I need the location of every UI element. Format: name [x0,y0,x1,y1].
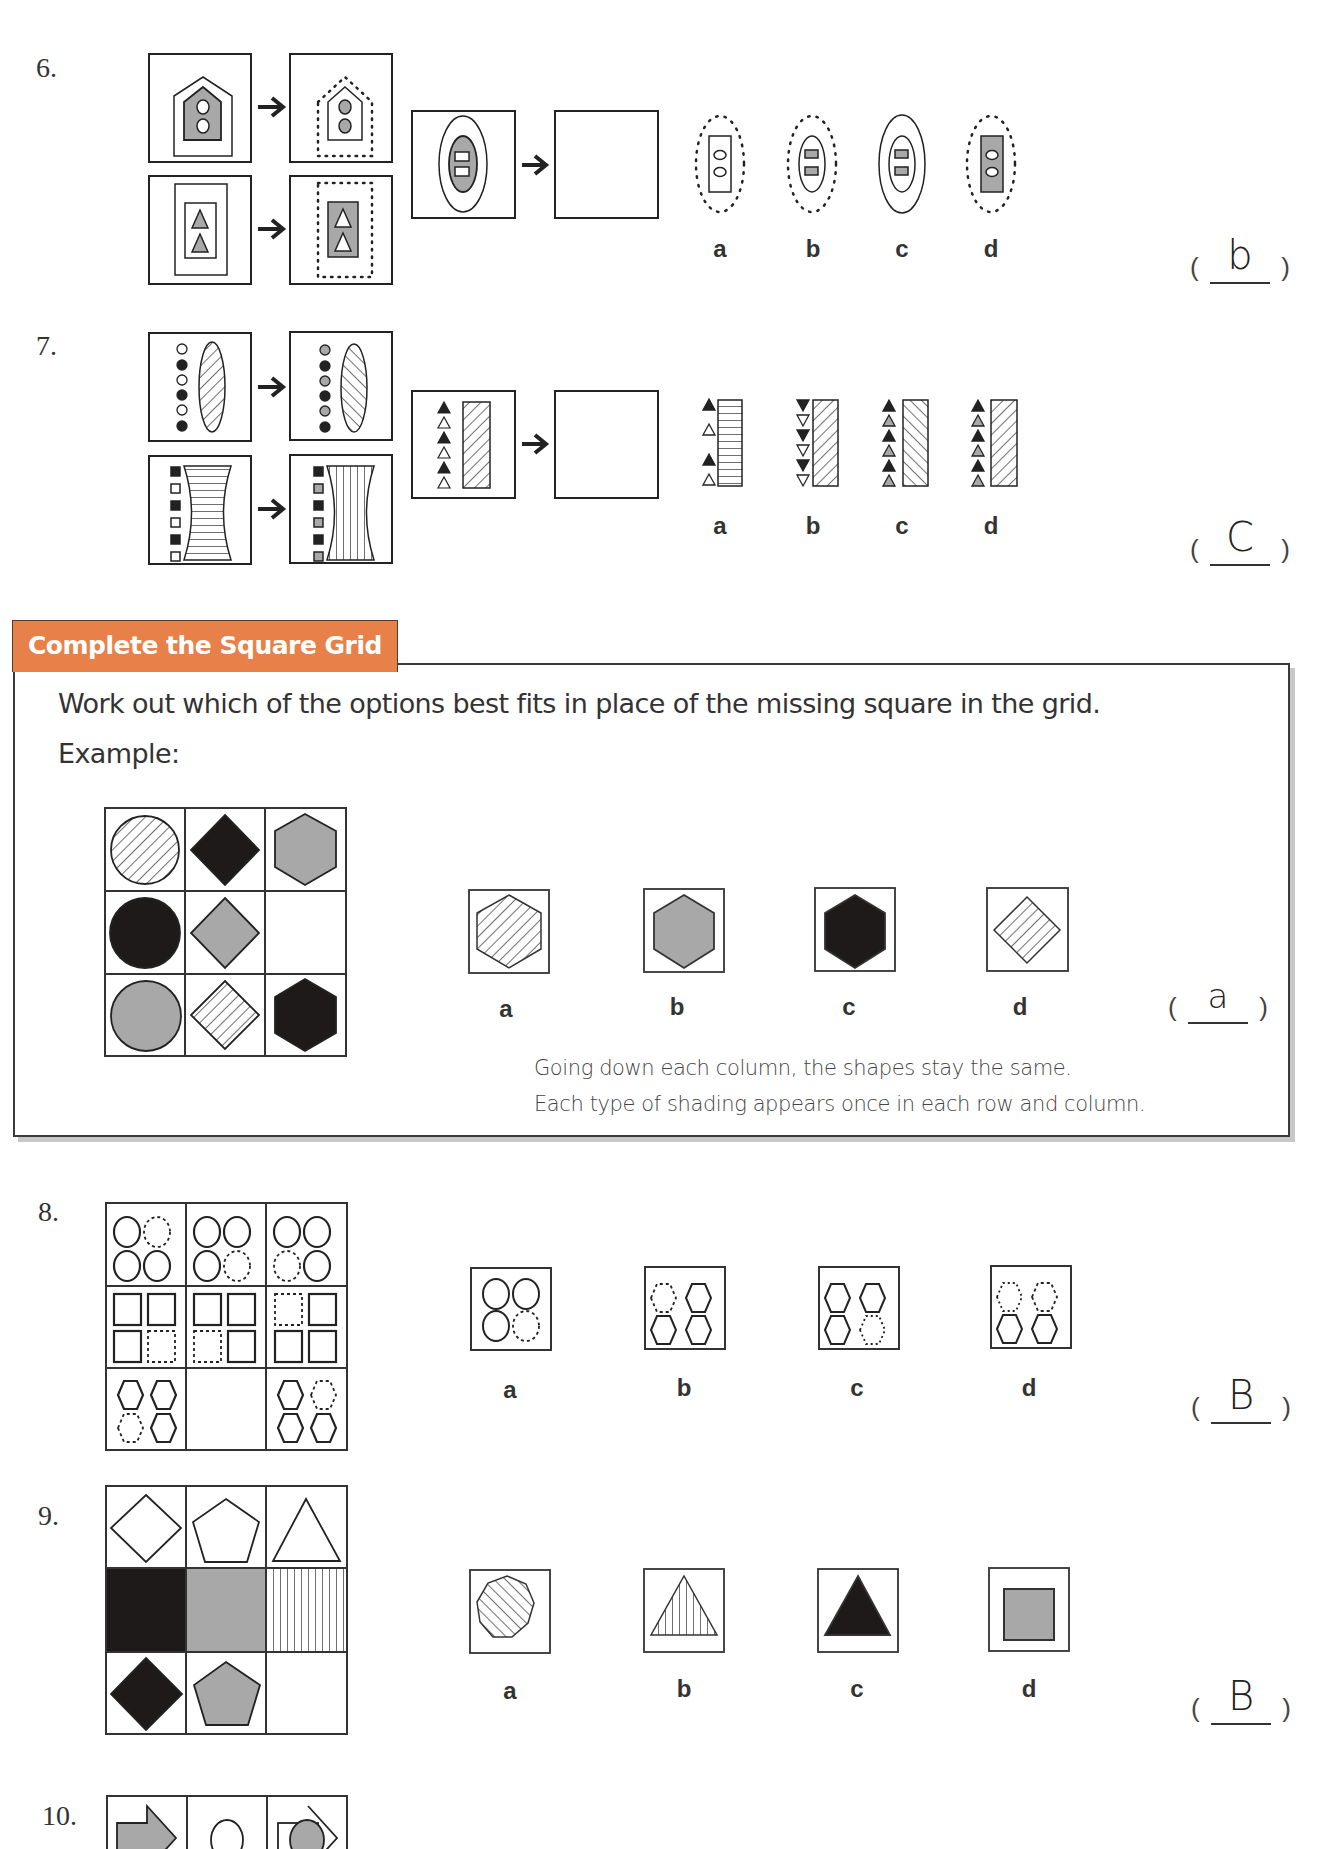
arrow-shape-grey [117,1806,176,1849]
circle-white [211,1820,243,1849]
q10-figure [0,0,1323,1849]
